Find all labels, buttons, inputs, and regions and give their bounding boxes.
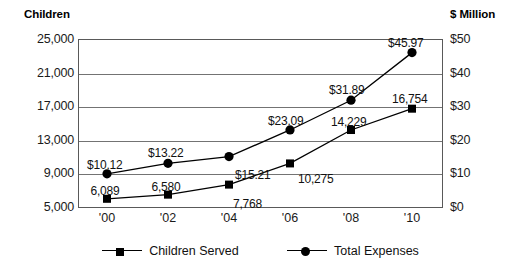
- left-tick-21000: 21,000: [2, 66, 74, 80]
- x-tick-02: '02: [143, 211, 193, 225]
- plot-area: [78, 39, 443, 208]
- right-tick-20: $20: [450, 133, 510, 147]
- left-axis-ticks: 25,000 21,000 17,000 13,000 9,000 5,000: [0, 0, 74, 270]
- right-tick-10: $10: [450, 166, 510, 180]
- left-tick-25000: 25,000: [2, 32, 74, 46]
- left-tick-17000: 17,000: [2, 99, 74, 113]
- x-tick-00: '00: [82, 211, 132, 225]
- circle-marker-icon: [287, 245, 327, 257]
- left-tick-5000: 5,000: [2, 200, 74, 214]
- point-label: 6,580: [152, 180, 181, 194]
- right-tick-0: $0: [450, 200, 510, 214]
- gridline-21000: [79, 74, 442, 75]
- point-label: $13.22: [148, 146, 184, 160]
- legend-label-total-expenses: Total Expenses: [334, 244, 419, 258]
- point-label: 7,768: [233, 197, 262, 211]
- x-tick-06: '06: [265, 211, 315, 225]
- point-label: $31.89: [329, 83, 365, 97]
- left-tick-9000: 9,000: [2, 166, 74, 180]
- point-label: $15.21: [235, 168, 271, 182]
- point-label: 14,229: [331, 115, 367, 129]
- right-tick-50: $50: [450, 32, 510, 46]
- x-tick-04: '04: [204, 211, 254, 225]
- chart-legend: Children Served Total Expenses: [78, 238, 443, 264]
- right-tick-40: $40: [450, 66, 510, 80]
- left-tick-13000: 13,000: [2, 133, 74, 147]
- legend-label-children-served: Children Served: [149, 244, 239, 258]
- square-marker-icon: [102, 245, 142, 257]
- x-tick-08: '08: [326, 211, 376, 225]
- gridline-13000: [79, 141, 442, 142]
- legend-item-total-expenses: Total Expenses: [287, 244, 419, 258]
- point-label: $23.09: [268, 114, 304, 128]
- x-tick-10: '10: [387, 211, 437, 225]
- point-label: 10,275: [298, 172, 334, 186]
- legend-item-children-served: Children Served: [102, 244, 239, 258]
- chart-container: Children $ Million 25,000 21,000 17,000 …: [0, 0, 519, 270]
- right-axis-ticks: $50 $40 $30 $20 $10 $0: [450, 0, 519, 270]
- gridline-17000: [79, 107, 442, 108]
- point-label: $45.97: [388, 36, 424, 50]
- point-label: 6,089: [91, 184, 120, 198]
- point-label: 16,754: [392, 92, 428, 106]
- right-tick-30: $30: [450, 99, 510, 113]
- point-label: $10.12: [87, 158, 123, 172]
